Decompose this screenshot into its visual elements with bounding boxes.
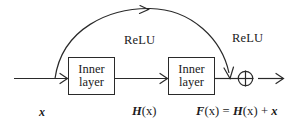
residual-block-diagram: Inner layer Inner layer ReLU ReLU x H(x)… xyxy=(0,0,299,128)
relu-label-2: ReLU xyxy=(232,31,263,46)
inner-layer-box-1-line1: Inner xyxy=(78,63,104,77)
arc-midpoint-arrowhead-icon xyxy=(140,6,149,14)
intermediate-fn-arg: (x) xyxy=(142,104,157,118)
input-signal-label: x xyxy=(39,105,45,120)
inner-layer-box-1: Inner layer xyxy=(68,57,115,95)
equals-sign: = xyxy=(219,104,233,118)
output-fn-arg: (x) xyxy=(204,104,219,118)
inner-layer-box-2: Inner layer xyxy=(168,57,215,95)
output-term1-arg: (x) xyxy=(243,104,258,118)
output-signal-label: F(x) = H(x) + x xyxy=(196,104,278,119)
output-term1-fn-name: H xyxy=(233,104,243,118)
intermediate-fn-name: H xyxy=(132,104,142,118)
inner-layer-box-2-line1: Inner xyxy=(178,63,204,77)
inner-layer-box-1-line2: layer xyxy=(79,76,104,90)
plus-sign: + xyxy=(258,104,272,118)
inner-layer-box-2-line2: layer xyxy=(179,76,204,90)
relu-label-1: ReLU xyxy=(124,33,155,48)
intermediate-signal-label: H(x) xyxy=(132,104,156,119)
output-term2: x xyxy=(271,104,277,118)
